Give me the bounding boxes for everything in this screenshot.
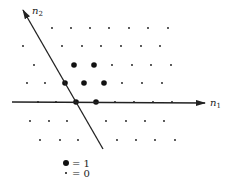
point-zero xyxy=(140,45,142,47)
point-zero xyxy=(170,64,172,66)
point-zero xyxy=(167,27,169,29)
point-zero xyxy=(48,120,50,122)
point-zero xyxy=(174,139,176,141)
point-zero xyxy=(141,82,143,84)
point-zero xyxy=(150,64,152,66)
n1-axis xyxy=(12,102,205,103)
point-zero xyxy=(59,139,61,141)
point-zero xyxy=(44,82,46,84)
point-zero xyxy=(128,27,130,29)
point-zero xyxy=(39,139,41,141)
large-dot-icon xyxy=(63,160,69,166)
lattice-points xyxy=(22,27,176,141)
point-zero xyxy=(135,139,137,141)
point-zero xyxy=(70,27,72,29)
point-zero xyxy=(147,27,149,29)
point-zero xyxy=(66,120,68,122)
point-zero xyxy=(77,139,79,141)
legend: = 1 = 0 xyxy=(63,158,90,179)
point-zero xyxy=(163,120,165,122)
n2-label: n2 xyxy=(32,5,43,18)
n1-label: n1 xyxy=(210,97,221,110)
point-zero xyxy=(116,139,118,141)
point-one xyxy=(81,80,87,86)
point-zero xyxy=(22,45,24,47)
point-zero xyxy=(100,45,102,47)
point-zero xyxy=(144,120,146,122)
small-dot-icon xyxy=(65,172,67,174)
lattice-diagram: n1 n2 = 1 = 0 xyxy=(0,0,234,188)
point-zero xyxy=(89,27,91,29)
point-zero xyxy=(81,45,83,47)
point-zero xyxy=(51,27,53,29)
point-zero xyxy=(111,64,113,66)
point-zero xyxy=(29,120,31,122)
point-zero xyxy=(154,139,156,141)
point-zero xyxy=(131,64,133,66)
point-zero xyxy=(105,120,107,122)
point-zero xyxy=(161,82,163,84)
point-one xyxy=(101,80,107,86)
n2-axis xyxy=(23,10,103,149)
point-zero xyxy=(159,45,161,47)
point-one xyxy=(71,62,77,68)
point-zero xyxy=(121,82,123,84)
legend-zero: = 0 xyxy=(72,168,90,179)
point-one xyxy=(91,62,97,68)
point-zero xyxy=(108,27,110,29)
point-zero xyxy=(120,45,122,47)
point-zero xyxy=(33,64,35,66)
point-zero xyxy=(26,82,28,84)
point-zero xyxy=(125,120,127,122)
point-zero xyxy=(61,45,63,47)
